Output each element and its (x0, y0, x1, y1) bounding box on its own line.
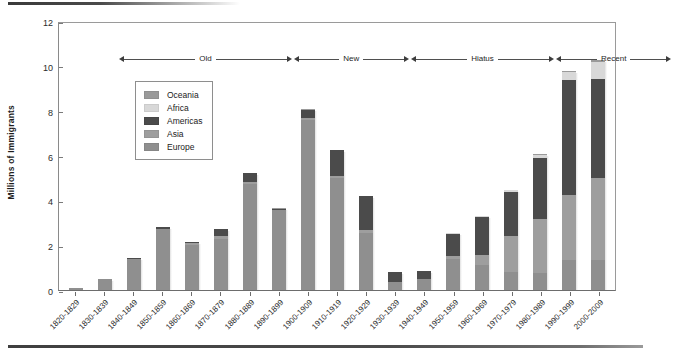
bar-slot (61, 23, 90, 290)
arrow-right-icon (666, 56, 671, 62)
bar-segment-asia (562, 195, 576, 260)
x-axis-label: 1820-1829 (48, 298, 81, 331)
bar-segment-americas (330, 150, 344, 176)
era-line (124, 59, 195, 60)
arrow-right-icon (287, 56, 292, 62)
x-axis: 1820-18291830-18391840-18491850-18591860… (58, 292, 616, 352)
stacked-bar[interactable] (98, 279, 112, 290)
x-tick (454, 292, 455, 296)
stacked-bar[interactable] (591, 60, 605, 290)
bar-segment-europe (475, 265, 489, 290)
y-tick-4: 4 (48, 197, 59, 207)
legend: OceaniaAfricaAmericasAsiaEurope (135, 81, 213, 160)
x-tick (512, 292, 513, 296)
x-tick (220, 292, 221, 296)
bar-segment-europe (330, 178, 344, 290)
arrow-right-icon (404, 56, 409, 62)
era-line (630, 59, 666, 60)
stacked-bar[interactable] (388, 272, 402, 290)
bar-segment-europe (591, 260, 605, 290)
stacked-bar[interactable] (446, 233, 460, 290)
stacked-bar[interactable] (69, 288, 83, 290)
legend-label: Asia (167, 129, 184, 139)
legend-item-americas[interactable]: Americas (144, 114, 202, 127)
era-label: Recent (597, 55, 630, 63)
legend-label: Americas (167, 116, 202, 126)
stacked-bar[interactable] (562, 71, 576, 290)
bar-slot (90, 23, 119, 290)
era-line (216, 59, 287, 60)
bar-segment-europe (214, 239, 228, 290)
legend-swatch-africa (144, 104, 159, 112)
legend-item-oceania[interactable]: Oceania (144, 88, 202, 101)
bar-segment-europe (533, 273, 547, 290)
y-tick-10: 10 (43, 63, 59, 73)
plot-area: 024681012 OldNewHiatusRecent OceaniaAfri… (58, 22, 616, 291)
bar-segment-europe (127, 259, 141, 290)
stacked-bar[interactable] (417, 271, 431, 290)
bar-segment-europe (504, 272, 518, 290)
bar-segment-americas (475, 217, 489, 256)
era-label: Hiatus (467, 55, 498, 63)
bar-segment-americas (301, 110, 315, 118)
era-line (561, 59, 597, 60)
x-tick (250, 292, 251, 296)
legend-item-europe[interactable]: Europe (144, 140, 202, 153)
bar-segment-europe (243, 184, 257, 290)
bar-segment-asia (504, 236, 518, 272)
stacked-bar[interactable] (330, 150, 344, 290)
bar-segment-europe (562, 260, 576, 290)
bar-segment-americas (504, 192, 518, 236)
legend-swatch-europe (144, 143, 159, 151)
x-tick (599, 292, 600, 296)
bar-segment-americas (214, 229, 228, 237)
legend-item-asia[interactable]: Asia (144, 127, 202, 140)
stacked-bar[interactable] (127, 258, 141, 290)
bar-segment-europe (417, 279, 431, 290)
stacked-bar[interactable] (475, 216, 489, 290)
bar-segment-americas (243, 173, 257, 183)
bar-segment-europe (446, 259, 460, 290)
stacked-bar[interactable] (214, 229, 228, 290)
legend-item-africa[interactable]: Africa (144, 101, 202, 114)
x-tick (162, 292, 163, 296)
era-annotations: OldNewHiatusRecent (117, 53, 675, 65)
y-tick-12: 12 (43, 18, 59, 28)
stacked-bar[interactable] (243, 173, 257, 290)
bar-segment-americas (417, 271, 431, 279)
bar-segment-americas (388, 272, 402, 281)
x-tick (570, 292, 571, 296)
bar-segment-europe (301, 120, 315, 290)
arrow-right-icon (549, 56, 554, 62)
era-bracket-recent: Recent (556, 53, 671, 65)
stacked-bar[interactable] (504, 190, 518, 290)
era-bracket-old: Old (119, 53, 292, 65)
y-axis-label: Millions of Immigrants (6, 105, 16, 200)
legend-swatch-oceania (144, 91, 159, 99)
y-tick-6: 6 (48, 153, 59, 163)
bar-segment-africa (562, 72, 576, 80)
bar-segment-asia (533, 219, 547, 273)
x-tick (191, 292, 192, 296)
bar-segment-americas (446, 234, 460, 256)
x-tick (541, 292, 542, 296)
stacked-bar[interactable] (156, 227, 170, 290)
x-tick (366, 292, 367, 296)
era-line (416, 59, 468, 60)
stacked-bar[interactable] (359, 196, 373, 290)
x-tick (424, 292, 425, 296)
stacked-bar[interactable] (301, 109, 315, 290)
stacked-bar[interactable] (185, 242, 199, 290)
era-bracket-hiatus: Hiatus (411, 53, 555, 65)
bar-segment-europe (359, 233, 373, 290)
stacked-bar[interactable] (272, 208, 286, 290)
legend-label: Europe (167, 142, 194, 152)
x-tick (395, 292, 396, 296)
stacked-bar[interactable] (533, 154, 547, 290)
bar-segment-europe (69, 288, 83, 290)
legend-swatch-asia (144, 130, 159, 138)
x-tick (279, 292, 280, 296)
legend-label: Africa (167, 103, 189, 113)
x-tick (337, 292, 338, 296)
